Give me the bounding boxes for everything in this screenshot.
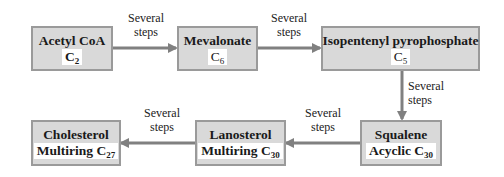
formula-element: C: [261, 143, 271, 158]
edge-label-line: Several: [118, 11, 174, 25]
node-mevalonate: Mevalonate C6: [177, 26, 258, 71]
edge-label-1: Several steps: [118, 11, 174, 39]
node-name: Lanosterol: [209, 127, 271, 143]
node-isopentenyl-pyrophosphate: Isopentenyl pyrophosphate C5: [321, 26, 480, 71]
edge-label-2: Several steps: [261, 11, 317, 39]
formula-prefix: Multiring: [201, 143, 261, 158]
formula-subscript: 2: [75, 56, 80, 66]
node-name: Acetyl CoA: [39, 33, 105, 49]
node-formula: Multiring C30: [198, 143, 282, 159]
edge-label-5: Several steps: [134, 106, 190, 134]
formula-prefix: Multiring: [37, 143, 97, 158]
node-acetyl-coa: Acetyl CoA C2: [31, 26, 113, 71]
node-formula: C5: [391, 49, 411, 65]
formula-subscript: 27: [106, 150, 115, 160]
edge-label-line: Several: [295, 106, 351, 120]
node-lanosterol: Lanosterol Multiring C30: [195, 120, 286, 166]
node-name: Mevalonate: [184, 33, 251, 49]
edge-label-line: steps: [118, 25, 174, 39]
formula-element: C: [394, 49, 403, 64]
formula-element: C: [65, 49, 75, 64]
node-formula: Multiring C27: [34, 143, 118, 159]
node-name: Squalene: [375, 127, 428, 143]
edge-label-4: Several steps: [295, 106, 351, 134]
edge-label-3: Several steps: [408, 79, 458, 107]
edge-label-line: steps: [261, 25, 317, 39]
node-name: Cholesterol: [43, 127, 109, 143]
formula-subscript: 6: [220, 56, 225, 66]
formula-subscript: 5: [403, 56, 408, 66]
edge-label-line: steps: [295, 120, 351, 134]
node-formula: C2: [62, 49, 82, 65]
formula-element: C: [211, 49, 220, 64]
node-formula: C6: [208, 49, 228, 65]
edge-label-line: steps: [408, 93, 458, 107]
edge-label-line: Several: [261, 11, 317, 25]
node-squalene: Squalene Acyclic C30: [360, 120, 442, 166]
formula-prefix: Acyclic: [369, 143, 414, 158]
edge-label-line: Several: [408, 79, 458, 93]
edge-label-line: Several: [134, 106, 190, 120]
formula-subscript: 30: [424, 150, 433, 160]
formula-element: C: [96, 143, 106, 158]
node-name: Isopentenyl pyrophosphate: [322, 33, 478, 49]
edge-label-line: steps: [134, 120, 190, 134]
formula-element: C: [414, 143, 424, 158]
formula-subscript: 30: [271, 150, 280, 160]
node-cholesterol: Cholesterol Multiring C27: [31, 120, 121, 166]
node-formula: Acyclic C30: [366, 143, 436, 159]
